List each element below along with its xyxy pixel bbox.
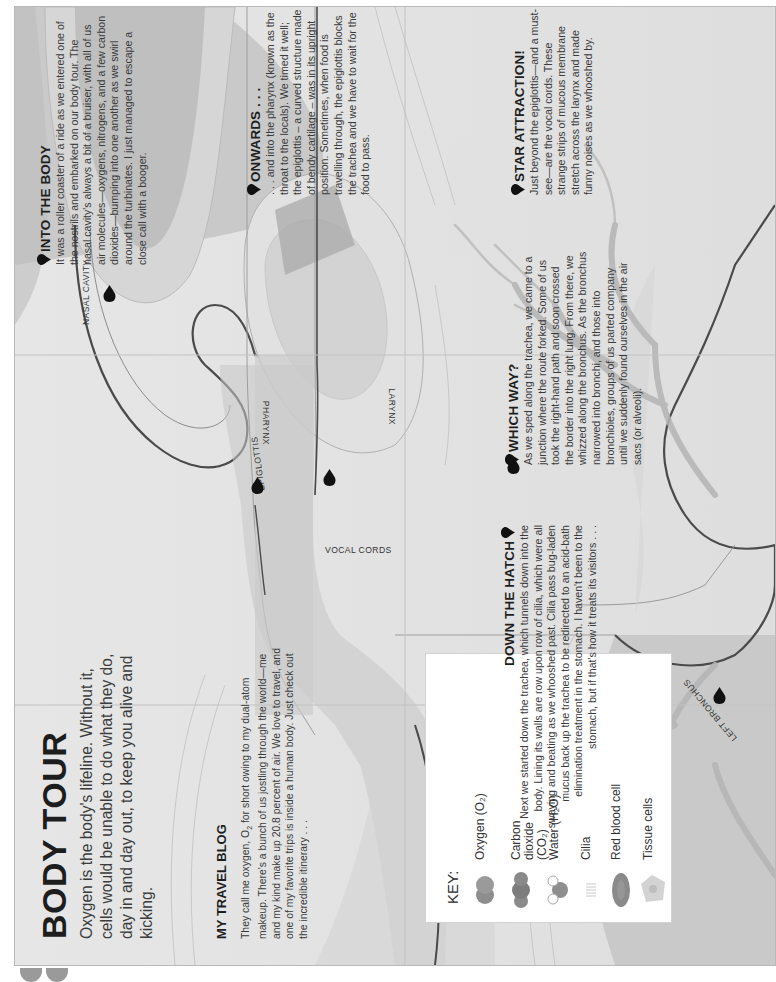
stop-1-heading: INTO THE BODY bbox=[38, 145, 53, 252]
pin-5-icon bbox=[505, 454, 519, 465]
carbon-dioxide-molecule-icon bbox=[506, 872, 536, 908]
stop-2-body: . . . and into the pharynx (known as the… bbox=[264, 6, 373, 195]
map-pin-3[interactable] bbox=[323, 469, 336, 487]
pin-4-icon bbox=[501, 527, 515, 538]
pin-3-icon bbox=[511, 184, 525, 195]
stop-1-into-the-body: INTO THE BODY It was a roller coaster of… bbox=[37, 15, 149, 265]
stop-5-which-way: WHICH WAY? As we sped along the trachea,… bbox=[505, 249, 644, 465]
map-label-larynx: LARYNX bbox=[387, 388, 397, 425]
stop-4-body: Next we started down the trachea, which … bbox=[518, 525, 600, 835]
stop-3-body: Just beyond the epiglottis—and a must-se… bbox=[528, 6, 596, 195]
key-item-oxygen: Oxygen (O₂) bbox=[470, 658, 500, 908]
stop-3-star-attraction: STAR ATTRACTION! Just beyond the epiglot… bbox=[511, 6, 596, 195]
key-item-red-blood-cell: Red blood cell bbox=[606, 658, 636, 908]
stop-4-down-the-hatch: DOWN THE HATCH Next we started down the … bbox=[501, 525, 600, 835]
key-title: KEY: bbox=[444, 871, 461, 904]
map-pin-5[interactable] bbox=[713, 687, 726, 705]
red-blood-cell-icon bbox=[606, 872, 636, 908]
map-pin-1[interactable] bbox=[103, 285, 116, 303]
page-title: BODY TOUR bbox=[35, 732, 74, 939]
map-label-vocal-cords: VOCAL CORDS bbox=[325, 545, 392, 555]
travel-blog-block: MY TRAVEL BLOG They call me oxygen, O2 f… bbox=[215, 639, 320, 939]
tissue-cells-icon bbox=[638, 872, 668, 908]
stop-5-body: As we sped along the trachea, we came to… bbox=[522, 249, 644, 465]
pin-2-icon bbox=[247, 184, 261, 195]
stop-1-body: It was a roller coaster of a ride as we … bbox=[54, 15, 149, 265]
stop-4-heading: DOWN THE HATCH bbox=[502, 541, 517, 666]
map-label-pharynx: PHARYNX bbox=[261, 401, 271, 445]
water-molecule-icon bbox=[544, 872, 574, 908]
travel-blog-heading: MY TRAVEL BLOG bbox=[215, 639, 228, 939]
map-pin-2[interactable] bbox=[251, 477, 264, 495]
key-item-tissue-cells: Tissue cells bbox=[638, 658, 668, 908]
stop-2-heading: ONWARDS . . . bbox=[248, 88, 263, 182]
page-lead: Oxygen is the body's lifeline. Without i… bbox=[77, 639, 157, 939]
travel-blog-body: They call me oxygen, O2 for short owing … bbox=[239, 639, 310, 939]
oxygen-molecule-icon bbox=[470, 872, 500, 908]
pin-1-icon bbox=[37, 254, 51, 265]
cilia-icon bbox=[576, 872, 606, 908]
stop-5-heading: WHICH WAY? bbox=[506, 364, 521, 452]
stop-2-onwards: ONWARDS . . . . . . and into the pharynx… bbox=[247, 6, 373, 195]
page-number-marker bbox=[20, 968, 70, 982]
map-label-nasal-cavity: NASAL CAVITY bbox=[81, 260, 91, 325]
stop-3-heading: STAR ATTRACTION! bbox=[512, 50, 527, 182]
page-frame: NASAL CAVITY EPIGLOTTIS PHARYNX VOCAL CO… bbox=[14, 6, 776, 966]
